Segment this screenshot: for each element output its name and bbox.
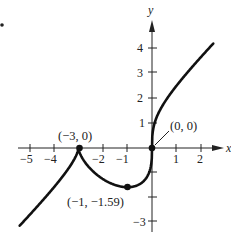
x-axis-arrow-icon	[212, 145, 224, 151]
y-tick-label: 2	[137, 91, 143, 105]
x-tick-labels: −5 −4 −2 −1 1 2	[20, 152, 203, 166]
y-axis-arrow-icon	[149, 20, 155, 32]
point-neg1-min	[124, 184, 131, 191]
function-graph: x y −5 −4 −2 −1 1 2	[0, 0, 231, 232]
x-tick-label: 2	[197, 152, 203, 166]
y-tick-label: 4	[137, 41, 143, 55]
x-axis-label: x	[225, 141, 231, 155]
x-tick-label: −2	[92, 152, 105, 166]
x-tick-label: 1	[173, 152, 179, 166]
bullet-dot	[0, 23, 4, 27]
point-neg3-0	[76, 145, 83, 152]
y-axis-label: y	[147, 3, 154, 17]
point-label-neg1: (−1, −1.59)	[67, 195, 124, 209]
origin-leader-line	[155, 131, 169, 145]
x-tick-label: −5	[20, 152, 33, 166]
y-tick-label: 3	[137, 66, 143, 80]
x-tick-label: −4	[44, 152, 57, 166]
y-tick-label: −3	[133, 215, 146, 229]
point-origin	[149, 145, 156, 152]
y-tick-label: 1	[139, 116, 145, 130]
x-tick-label: −1	[116, 152, 129, 166]
point-label-neg3: (−3, 0)	[58, 129, 92, 143]
point-label-origin: (0, 0)	[170, 119, 197, 133]
y-tick-labels: 4 3 2 1 −3	[133, 41, 146, 229]
graph-canvas: x y −5 −4 −2 −1 1 2	[0, 0, 231, 232]
